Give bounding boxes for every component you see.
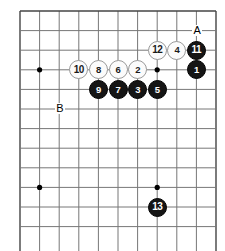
board-marker-B: B — [55, 103, 64, 114]
go-stone-black-3: 3 — [128, 80, 147, 99]
go-stone-white-4: 4 — [167, 41, 186, 60]
go-stone-black-13: 13 — [148, 198, 167, 217]
star-point — [155, 185, 160, 190]
star-point — [37, 67, 42, 72]
board-marker-A: A — [192, 25, 201, 36]
go-stone-black-11: 11 — [187, 41, 206, 60]
go-stone-white-6: 6 — [109, 60, 128, 79]
go-board-grid — [0, 0, 225, 251]
go-stone-black-7: 7 — [109, 80, 128, 99]
go-stone-black-5: 5 — [148, 80, 167, 99]
star-point — [155, 67, 160, 72]
go-stone-white-12: 12 — [148, 41, 167, 60]
go-diagram: 12345678910111213 AB — [0, 0, 225, 251]
go-stone-black-9: 9 — [89, 80, 108, 99]
star-point — [37, 185, 42, 190]
